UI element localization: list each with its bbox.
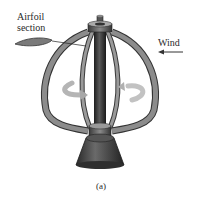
top-hub <box>88 15 112 32</box>
airfoil-label-line1: Airfoil <box>17 11 45 22</box>
figure-caption: (a) <box>96 181 106 192</box>
airfoil-label-line2: section <box>17 22 45 33</box>
wind-label: Wind <box>158 37 180 48</box>
figure-canvas: Airfoil section Wind (a) <box>0 0 201 199</box>
central-shaft <box>94 28 106 138</box>
airfoil-section-label: Airfoil section <box>17 11 45 33</box>
wind-arrow-icon <box>158 50 183 55</box>
turbine-base <box>76 134 124 169</box>
rotation-arrow-right-icon <box>118 82 143 100</box>
